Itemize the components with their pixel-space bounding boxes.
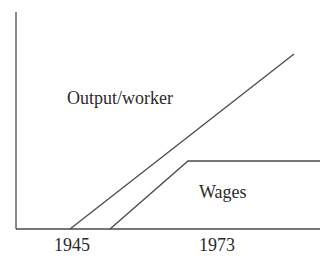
- output-wages-chart: Output/worker Wages 1945 1973: [0, 0, 331, 265]
- x-tick-1945: 1945: [54, 235, 90, 255]
- output-per-worker-label: Output/worker: [67, 88, 173, 108]
- x-tick-1973: 1973: [199, 235, 235, 255]
- wages-label: Wages: [199, 182, 247, 202]
- output-per-worker-line: [70, 54, 294, 229]
